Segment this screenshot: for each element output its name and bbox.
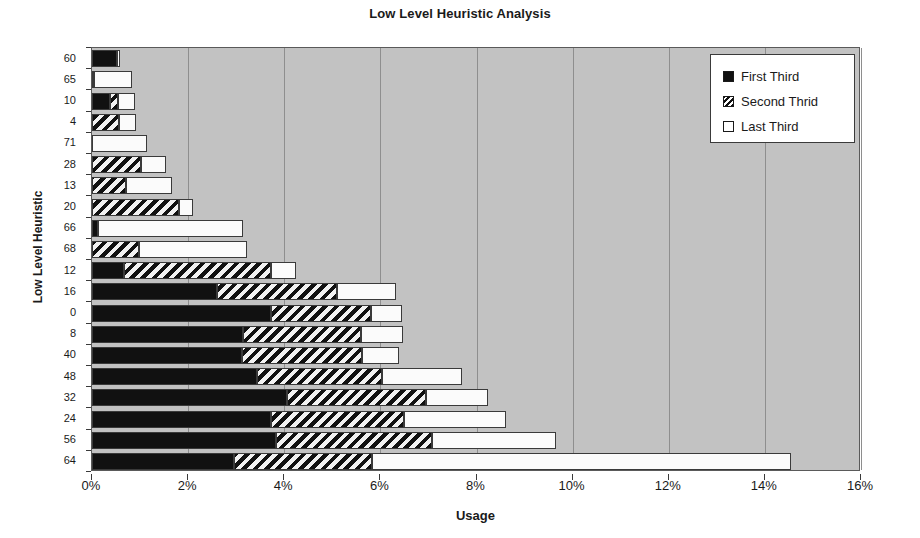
bar-segment xyxy=(92,50,117,67)
bar-segment xyxy=(139,241,247,258)
bar-segment xyxy=(92,177,126,194)
bar-segment xyxy=(234,453,372,470)
y-tick-label: 0 xyxy=(70,306,76,318)
bar-segment xyxy=(92,262,124,279)
x-axis-title: Usage xyxy=(91,508,860,523)
bar-segment xyxy=(118,93,134,110)
legend-label: Last Third xyxy=(741,119,799,134)
x-tick-label: 14% xyxy=(751,478,777,493)
bar-segment xyxy=(124,262,271,279)
bar-segment xyxy=(92,453,234,470)
bar-segment xyxy=(92,241,139,258)
bar-segment xyxy=(271,411,404,428)
y-tick-label: 66 xyxy=(64,221,76,233)
x-tick-label: 12% xyxy=(655,478,681,493)
bar-segment xyxy=(337,283,396,300)
y-tick-label: 24 xyxy=(64,412,76,424)
y-tick-label: 28 xyxy=(64,158,76,170)
bar-segment xyxy=(426,389,488,406)
bar-segment xyxy=(287,389,426,406)
bar-segment xyxy=(92,135,147,152)
bar-segment xyxy=(432,432,556,449)
legend-item: Last Third xyxy=(723,114,854,139)
bar-segment xyxy=(92,114,119,131)
y-tick-label: 48 xyxy=(64,370,76,382)
bar-segment xyxy=(92,389,287,406)
y-tick-label: 10 xyxy=(64,94,76,106)
bar-segment xyxy=(110,93,118,110)
bar-segment xyxy=(117,50,120,67)
bar-segment xyxy=(179,199,193,216)
x-tick-label: 16% xyxy=(847,478,873,493)
legend-item: Second Thrid xyxy=(723,89,854,114)
bar-segment xyxy=(94,71,131,88)
bar-segment xyxy=(92,326,243,343)
bar-segment xyxy=(372,453,791,470)
x-tick-label: 2% xyxy=(178,478,197,493)
bar-segment xyxy=(126,177,172,194)
bar-segment xyxy=(92,411,271,428)
bar-segment xyxy=(371,305,402,322)
bar-segment xyxy=(98,220,243,237)
chart-title: Low Level Heuristic Analysis xyxy=(0,6,920,21)
x-axis-tick-labels: 0%2%4%6%8%10%12%14%16% xyxy=(0,474,920,500)
y-tick-label: 64 xyxy=(64,454,76,466)
white-swatch xyxy=(723,121,734,132)
bar-segment xyxy=(271,262,296,279)
y-tick-label: 65 xyxy=(64,73,76,85)
legend: First ThirdSecond ThridLast Third xyxy=(710,54,855,143)
x-tick-label: 6% xyxy=(370,478,389,493)
y-tick-label: 71 xyxy=(64,136,76,148)
hatched-swatch xyxy=(723,96,734,107)
y-tick-label: 40 xyxy=(64,348,76,360)
bar-segment xyxy=(361,326,403,343)
y-tick-label: 12 xyxy=(64,264,76,276)
legend-label: Second Thrid xyxy=(741,94,818,109)
bar-segment xyxy=(92,93,110,110)
y-axis-tick-labels: 6065104712813206668121608404832245664 xyxy=(0,47,86,471)
y-tick-label: 60 xyxy=(64,52,76,64)
legend-item: First Third xyxy=(723,64,854,89)
legend-label: First Third xyxy=(741,69,799,84)
y-tick-label: 32 xyxy=(64,391,76,403)
bar-segment xyxy=(92,199,179,216)
bar-segment xyxy=(92,283,217,300)
solid-black-swatch xyxy=(723,71,734,82)
bar-segment xyxy=(92,432,276,449)
bar-segment xyxy=(92,347,242,364)
bar-segment xyxy=(257,368,382,385)
y-tick-label: 16 xyxy=(64,285,76,297)
bar-segment xyxy=(242,347,362,364)
bar-segment xyxy=(217,283,337,300)
bar-segment xyxy=(119,114,136,131)
x-tick-label: 10% xyxy=(559,478,585,493)
y-tick-label: 20 xyxy=(64,200,76,212)
y-tick-mark xyxy=(86,471,91,472)
x-tick-label: 0% xyxy=(82,478,101,493)
bar-segment xyxy=(382,368,462,385)
bar-segment xyxy=(92,368,257,385)
y-tick-label: 13 xyxy=(64,179,76,191)
y-tick-label: 56 xyxy=(64,433,76,445)
bar-segment xyxy=(276,432,432,449)
x-tick-label: 8% xyxy=(466,478,485,493)
bar-segment xyxy=(362,347,399,364)
gridline xyxy=(861,48,862,470)
y-tick-label: 68 xyxy=(64,242,76,254)
y-tick-label: 4 xyxy=(70,115,76,127)
bar-segment xyxy=(404,411,506,428)
bar-segment xyxy=(92,156,141,173)
bar-segment xyxy=(141,156,166,173)
bar-segment xyxy=(92,305,271,322)
bar-segment xyxy=(271,305,371,322)
y-tick-label: 8 xyxy=(70,327,76,339)
x-tick-label: 4% xyxy=(274,478,293,493)
bar-segment xyxy=(243,326,361,343)
